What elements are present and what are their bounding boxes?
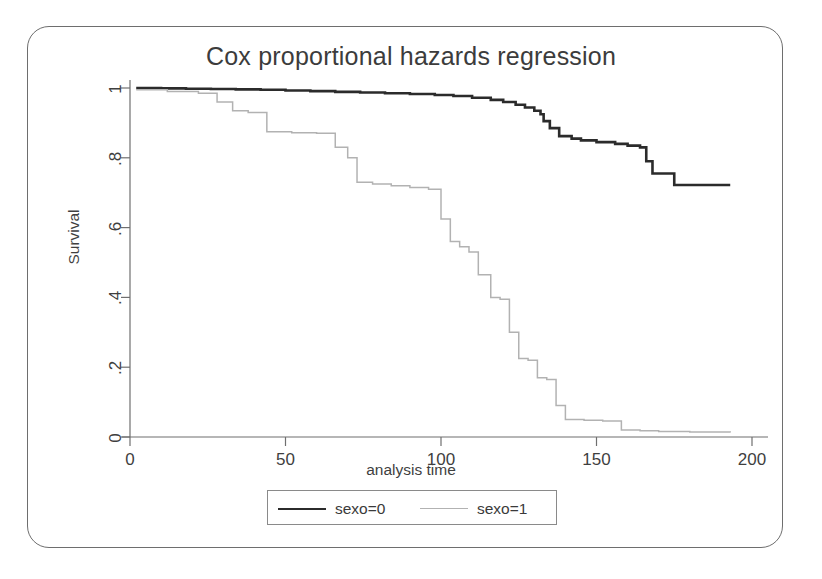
legend-entry: sexo=0 bbox=[278, 491, 385, 526]
x-axis-tick-label: 150 bbox=[582, 450, 610, 470]
plot-axes bbox=[121, 80, 768, 446]
chart-legend: sexo=0sexo=1 bbox=[267, 490, 557, 525]
y-axis-title: Survival bbox=[65, 177, 83, 297]
y-axis-tick-label: .2 bbox=[106, 345, 126, 391]
x-axis-tick-label: 100 bbox=[427, 450, 455, 470]
chart-figure: Cox proportional hazards regression anal… bbox=[0, 0, 822, 579]
series-line-sexo-1 bbox=[136, 90, 730, 433]
legend-entry: sexo=1 bbox=[420, 491, 527, 526]
x-axis-tick-label: 0 bbox=[125, 450, 134, 470]
y-axis-tick-label: 1 bbox=[106, 66, 126, 112]
legend-label: sexo=1 bbox=[477, 500, 527, 518]
legend-swatch-sexo-0 bbox=[278, 508, 326, 510]
y-axis-tick-label: .8 bbox=[106, 136, 126, 182]
legend-swatch-sexo-1 bbox=[420, 508, 468, 509]
x-axis-tick-label: 50 bbox=[276, 450, 295, 470]
legend-label: sexo=0 bbox=[335, 500, 385, 518]
x-axis-tick-label: 200 bbox=[738, 450, 766, 470]
y-axis-tick-label: .6 bbox=[106, 206, 126, 252]
y-axis-tick-label: .4 bbox=[106, 275, 126, 321]
x-axis-title: analysis time bbox=[0, 461, 822, 479]
plot-series bbox=[136, 88, 730, 432]
y-axis-tick-label: 0 bbox=[106, 415, 126, 461]
